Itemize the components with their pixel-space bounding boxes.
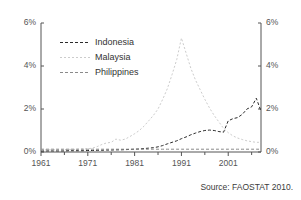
x-axis-label-2: 1981 xyxy=(115,158,155,168)
chart-figure: Indonesia Malaysia Philippines 6%6%4%4%2… xyxy=(0,0,301,200)
legend-swatch-malaysia xyxy=(60,57,90,58)
legend-swatch-philippines xyxy=(60,72,90,73)
chart-legend: Indonesia Malaysia Philippines xyxy=(60,37,139,78)
legend-item-malaysia: Malaysia xyxy=(60,52,139,63)
y-axis-label-left-3: 0% xyxy=(2,146,36,156)
source-note: Source: FAOSTAT 2010. xyxy=(200,182,293,192)
legend-swatch-indonesia xyxy=(60,42,90,43)
y-axis-label-right-1: 4% xyxy=(266,60,278,70)
y-axis-label-left-1: 4% xyxy=(2,60,36,70)
y-axis-label-right-2: 2% xyxy=(266,103,278,113)
legend-label-indonesia: Indonesia xyxy=(95,37,134,48)
x-axis-label-3: 1991 xyxy=(161,158,201,168)
x-axis-label-4: 2001 xyxy=(208,158,248,168)
y-axis-label-right-0: 6% xyxy=(266,17,278,27)
legend-item-indonesia: Indonesia xyxy=(60,37,139,48)
y-axis-label-left-2: 2% xyxy=(2,103,36,113)
series-line-indonesia xyxy=(41,98,261,151)
x-axis-label-1: 1971 xyxy=(68,158,108,168)
chart-plot-area xyxy=(0,0,301,200)
legend-label-philippines: Philippines xyxy=(95,67,139,78)
x-axis-label-0: 1961 xyxy=(21,158,61,168)
legend-item-philippines: Philippines xyxy=(60,67,139,78)
y-axis-label-right-3: 0% xyxy=(266,146,278,156)
y-axis-label-left-0: 6% xyxy=(2,17,36,27)
legend-label-malaysia: Malaysia xyxy=(95,52,131,63)
